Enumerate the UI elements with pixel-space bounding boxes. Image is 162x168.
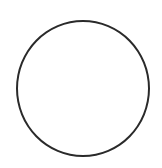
circle-outline-icon — [16, 20, 150, 157]
canvas — [0, 0, 162, 168]
